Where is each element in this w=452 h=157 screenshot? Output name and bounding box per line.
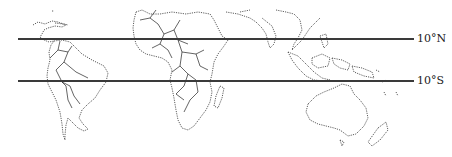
latitude-line-10s — [18, 80, 414, 82]
southeast-asia-coast — [276, 10, 320, 50]
south-america-borders — [50, 41, 88, 108]
latitude-label-10n: 10°N — [417, 33, 446, 45]
latitude-line-10n — [18, 38, 414, 40]
australia-coast — [306, 84, 368, 136]
world-map — [0, 0, 452, 157]
africa-coast — [133, 10, 228, 130]
south-america-coast — [47, 40, 108, 140]
arabia-india-coast — [226, 10, 276, 48]
caribbean-islands — [52, 11, 68, 25]
latitude-label-10s: 10°S — [417, 75, 444, 87]
indonesia-islands — [288, 34, 398, 96]
madagascar-coast — [214, 86, 224, 108]
africa-borders — [140, 10, 208, 112]
